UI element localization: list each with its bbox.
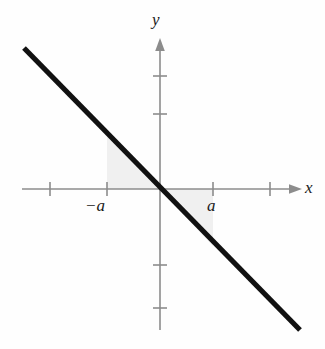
x-axis-label: x [305, 178, 313, 198]
graph-canvas [0, 0, 325, 349]
x-axis-arrow-icon [289, 184, 302, 194]
y-axis-arrow-icon [155, 38, 165, 51]
figure-container: y x −a a [0, 0, 325, 349]
x-tick-label-negative-a: −a [85, 196, 105, 216]
x-tick-label-positive-a: a [207, 196, 216, 216]
y-axis-label: y [152, 10, 160, 30]
